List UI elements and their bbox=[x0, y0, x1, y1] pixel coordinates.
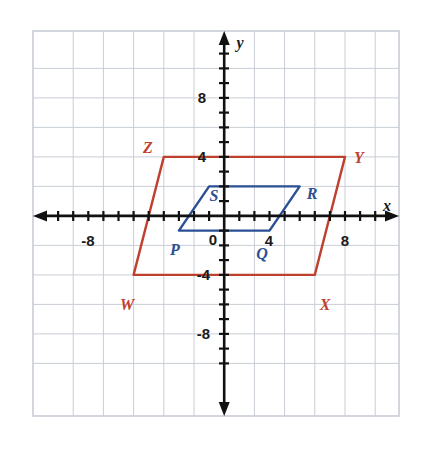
x-tick-label-8: 8 bbox=[341, 232, 349, 249]
coordinate-plane-figure: x y 0 -8 4 8 8 4 -4 -8 W X Y Z P Q R S bbox=[0, 0, 432, 449]
plot-background bbox=[33, 31, 399, 416]
vertex-label-x: X bbox=[319, 296, 331, 313]
x-tick-label--8: -8 bbox=[81, 232, 94, 249]
coordinate-plane-svg: x y 0 -8 4 8 8 4 -4 -8 W X Y Z P Q R S bbox=[0, 0, 432, 449]
origin-label: 0 bbox=[209, 231, 217, 248]
x-axis-label: x bbox=[382, 197, 391, 214]
y-tick-label--8: -8 bbox=[197, 325, 210, 342]
vertex-label-p: P bbox=[169, 241, 180, 258]
vertex-label-s: S bbox=[210, 187, 219, 204]
y-tick-label--4: -4 bbox=[197, 266, 211, 283]
y-axis-label: y bbox=[234, 34, 244, 52]
vertex-label-y: Y bbox=[354, 149, 365, 166]
vertex-label-z: Z bbox=[142, 139, 153, 156]
y-tick-label-8: 8 bbox=[198, 89, 206, 106]
y-tick-label-4: 4 bbox=[198, 148, 207, 165]
vertex-label-q: Q bbox=[256, 245, 268, 262]
vertex-label-w: W bbox=[120, 296, 136, 313]
vertex-label-r: R bbox=[306, 185, 318, 202]
